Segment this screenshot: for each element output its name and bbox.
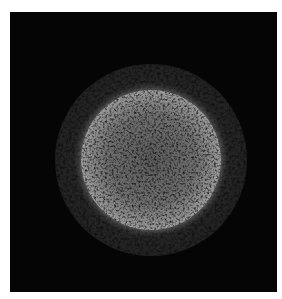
- bright-disc: [81, 90, 221, 230]
- image-frame: [10, 12, 277, 292]
- disc-speckle-texture: [81, 90, 221, 230]
